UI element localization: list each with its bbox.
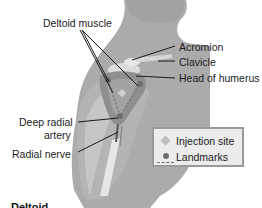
- caption: Deltoid: [11, 201, 48, 208]
- label-deltoid-muscle: Deltoid muscle: [43, 17, 112, 29]
- legend-label: Landmarks: [176, 151, 228, 163]
- legend-label: Injection site: [176, 135, 234, 147]
- label-head-of-humerus: Head of humerus: [179, 72, 260, 84]
- dashed-line-icon: [157, 162, 174, 163]
- label-radial-nerve: Radial nerve: [12, 148, 71, 160]
- label-deep-radial-artery-2: artery: [44, 129, 71, 141]
- label-deep-radial-artery-1: Deep radial: [19, 116, 73, 128]
- label-clavicle: Clavicle: [179, 56, 216, 68]
- shoulder-anatomy-illustration: [0, 0, 262, 208]
- legend: Injection site Landmarks: [152, 127, 244, 167]
- diamond-icon: [161, 136, 171, 146]
- landmark-dot-icon: [163, 153, 169, 159]
- label-acromion: Acromion: [179, 41, 223, 53]
